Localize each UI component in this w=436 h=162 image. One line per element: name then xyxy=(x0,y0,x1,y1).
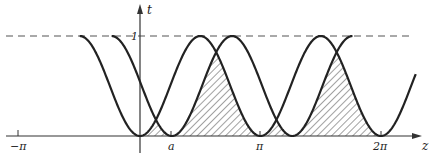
function-plot: t 1 −π a π 2π z xyxy=(0,0,436,162)
z-axis-arrow-icon xyxy=(412,133,422,139)
x-tick-label-neg-pi: −π xyxy=(10,140,27,153)
plot-canvas: t 1 −π a π 2π z xyxy=(0,0,436,162)
x-tick-label-pi: π xyxy=(255,140,264,153)
hatched-area xyxy=(140,53,381,136)
z-axis-label: z xyxy=(421,139,429,153)
t-axis-label: t xyxy=(147,3,152,17)
t-axis-arrow-icon xyxy=(137,4,143,14)
y-tick-label-1: 1 xyxy=(131,30,138,43)
x-tick-label-a: a xyxy=(168,140,175,153)
x-tick-label-2pi: 2π xyxy=(372,140,388,153)
curves xyxy=(80,36,416,136)
shaded-region xyxy=(140,53,381,136)
